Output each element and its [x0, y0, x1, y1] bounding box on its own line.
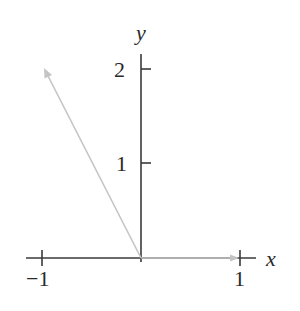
arrowhead-icon — [230, 255, 239, 262]
y-axis-label: y — [134, 20, 146, 45]
y-tick-label-2: 2 — [114, 57, 125, 82]
x-tick-label-neg1: −1 — [26, 266, 49, 291]
y-tick-label-1: 1 — [116, 151, 127, 176]
x-tick-label-1: 1 — [234, 266, 245, 291]
vector-diagram: y x 2 1 −1 1 — [0, 0, 300, 311]
x-axis-label: x — [265, 246, 276, 271]
